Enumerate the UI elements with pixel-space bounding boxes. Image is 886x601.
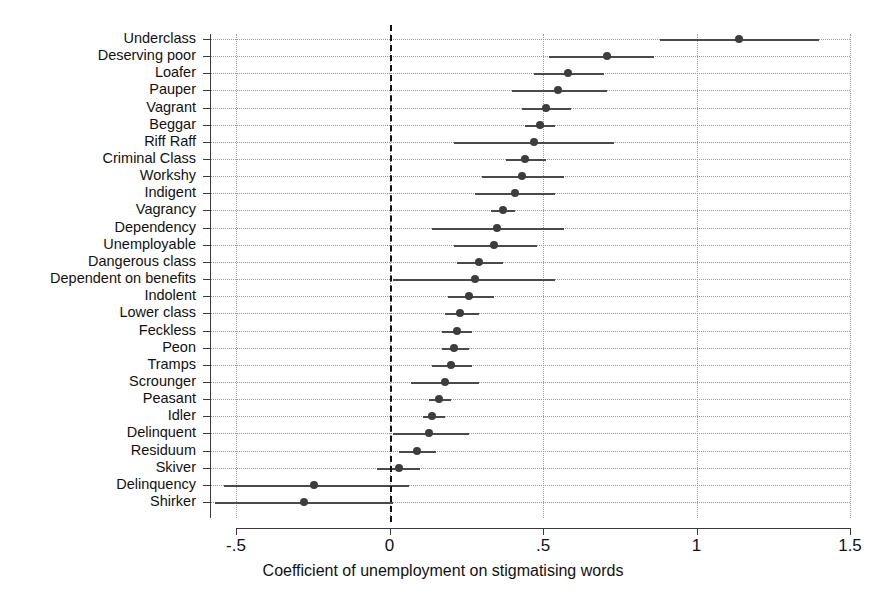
y-tick (203, 125, 211, 126)
data-point (300, 498, 308, 506)
gridline-horizontal (210, 451, 850, 452)
gridline-horizontal (210, 399, 850, 400)
gridline-horizontal (210, 56, 850, 57)
data-point (521, 155, 529, 163)
y-tick (203, 416, 211, 417)
y-axis-category-label: Dependency (115, 220, 196, 235)
y-tick (203, 502, 211, 503)
data-point (435, 395, 443, 403)
data-point (395, 464, 403, 472)
y-tick (203, 399, 211, 400)
y-axis-category-label: Lower class (119, 305, 196, 320)
y-axis-category-label: Idler (168, 408, 196, 423)
gridline-horizontal (210, 210, 850, 211)
x-axis-title: Coefficient of unemployment on stigmatis… (0, 562, 886, 580)
y-axis-category-label: Skiver (156, 460, 196, 475)
data-point (493, 224, 501, 232)
y-axis-category-label: Pauper (149, 82, 196, 97)
y-axis-category-label: Indolent (144, 288, 196, 303)
gridline-horizontal (210, 416, 850, 417)
y-tick (203, 142, 211, 143)
gridline-horizontal (210, 468, 850, 469)
data-point (310, 481, 318, 489)
y-tick (203, 39, 211, 40)
y-axis-category-label: Feckless (139, 323, 196, 338)
y-axis-category-label: Peasant (143, 391, 196, 406)
data-point (490, 241, 498, 249)
y-axis-category-label: Unemployable (103, 237, 196, 252)
gridline-horizontal (210, 262, 850, 263)
gridline-horizontal (210, 73, 850, 74)
x-tick (850, 528, 851, 535)
y-tick (203, 245, 211, 246)
data-point (554, 86, 562, 94)
data-point (475, 258, 483, 266)
y-tick (203, 210, 211, 211)
y-axis-category-label: Tramps (147, 357, 196, 372)
x-tick (543, 528, 544, 535)
y-axis-category-label: Shirker (150, 494, 196, 509)
y-tick (203, 382, 211, 383)
y-tick (203, 468, 211, 469)
data-point (471, 275, 479, 283)
gridline-horizontal (210, 433, 850, 434)
data-point (425, 429, 433, 437)
data-point (453, 327, 461, 335)
gridline-horizontal (210, 348, 850, 349)
y-axis-category-label: Indigent (144, 185, 196, 200)
y-tick (203, 193, 211, 194)
y-axis-category-label: Vagrant (146, 100, 196, 115)
y-tick (203, 108, 211, 109)
y-tick (203, 228, 211, 229)
y-tick (203, 313, 211, 314)
data-point (530, 138, 538, 146)
data-point (603, 52, 611, 60)
y-tick (203, 90, 211, 91)
plot-area (210, 34, 850, 518)
gridline-horizontal (210, 296, 850, 297)
forest-plot: -.50.511.5 UnderclassDeserving poorLoafe… (0, 0, 886, 601)
x-tick-label: 1 (662, 536, 732, 556)
y-axis-category-label: Loafer (155, 65, 196, 80)
data-point (564, 69, 572, 77)
x-tick (697, 528, 698, 535)
y-tick (203, 433, 211, 434)
x-tick (390, 528, 391, 535)
x-tick-label: 1.5 (815, 536, 885, 556)
y-axis-category-label: Delinquent (127, 425, 196, 440)
data-point (536, 121, 544, 129)
gridline-vertical (850, 34, 851, 518)
y-axis-category-label: Peon (162, 340, 196, 355)
confidence-interval-line (549, 56, 653, 58)
data-point (447, 361, 455, 369)
y-axis-category-label: Scrounger (129, 374, 196, 389)
y-tick (203, 348, 211, 349)
data-point (542, 104, 550, 112)
y-tick (203, 176, 211, 177)
y-axis-category-label: Dependent on benefits (50, 271, 196, 286)
y-axis-category-label: Deserving poor (98, 48, 196, 63)
y-tick (203, 365, 211, 366)
y-axis-category-label: Dangerous class (88, 254, 196, 269)
y-axis-category-label: Underclass (123, 31, 196, 46)
y-axis-category-label: Delinquency (116, 477, 196, 492)
y-tick (203, 331, 211, 332)
y-axis-category-label: Vagrancy (136, 202, 196, 217)
y-tick (203, 279, 211, 280)
y-tick (203, 296, 211, 297)
y-tick (203, 262, 211, 263)
y-tick (203, 56, 211, 57)
y-axis-category-label: Residuum (131, 443, 196, 458)
data-point (499, 206, 507, 214)
x-tick-label: 0 (355, 536, 425, 556)
gridline-horizontal (210, 331, 850, 332)
zero-reference-line (390, 25, 392, 522)
data-point (456, 309, 464, 317)
gridline-horizontal (210, 313, 850, 314)
y-axis-category-label: Beggar (149, 117, 196, 132)
data-point (511, 189, 519, 197)
gridline-horizontal (210, 365, 850, 366)
y-axis-category-label: Riff Raff (144, 134, 196, 149)
data-point (441, 378, 449, 386)
x-tick-label: .5 (508, 536, 578, 556)
